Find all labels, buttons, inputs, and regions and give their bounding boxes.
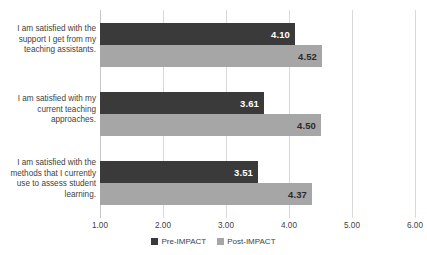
x-tick-label: 1.00 (92, 221, 108, 230)
bar-pre-3[interactable]: 3.51 (100, 161, 258, 183)
bar-pre-2[interactable]: 3.61 (100, 92, 264, 114)
legend: Pre-IMPACT Post-IMPACT (0, 237, 427, 246)
bar-pre-1[interactable]: 4.10 (100, 23, 295, 45)
bar-value-label: 4.50 (297, 120, 316, 131)
bar-groups: 4.10 4.52 3.61 4.50 3.51 4.37 (100, 10, 415, 218)
plot-area: 4.10 4.52 3.61 4.50 3.51 4.37 (100, 10, 415, 218)
bar-post-2[interactable]: 4.50 (100, 114, 321, 136)
bar-value-label: 3.51 (234, 167, 253, 178)
x-tick-label: 3.00 (218, 221, 234, 230)
bar-post-3[interactable]: 4.37 (100, 183, 312, 205)
x-axis: 1.00 2.00 3.00 4.00 5.00 6.00 (100, 218, 415, 234)
category-label: I am satisfied with the methods that I c… (0, 158, 96, 200)
bar-value-label: 4.37 (288, 189, 307, 200)
bar-post-1[interactable]: 4.52 (100, 45, 322, 67)
legend-swatch-icon (217, 238, 224, 245)
bar-value-label: 3.61 (240, 98, 259, 109)
legend-swatch-icon (151, 238, 158, 245)
x-tick-label: 2.00 (155, 221, 171, 230)
gridline-6 (415, 10, 416, 218)
legend-item-post-impact[interactable]: Post-IMPACT (217, 237, 275, 246)
x-tick-label: 4.00 (281, 221, 297, 230)
category-axis-labels: I am satisfied with the support I get fr… (0, 10, 96, 218)
legend-label: Post-IMPACT (227, 237, 275, 246)
category-label: I am satisfied with my current teaching … (0, 94, 96, 126)
x-tick-label: 6.00 (407, 221, 423, 230)
bar-chart: I am satisfied with the support I get fr… (0, 0, 427, 255)
x-tick-label: 5.00 (344, 221, 360, 230)
bar-value-label: 4.10 (271, 29, 290, 40)
legend-item-pre-impact[interactable]: Pre-IMPACT (151, 237, 206, 246)
category-label: I am satisfied with the support I get fr… (0, 24, 96, 56)
legend-label: Pre-IMPACT (161, 237, 206, 246)
bar-value-label: 4.52 (298, 51, 317, 62)
